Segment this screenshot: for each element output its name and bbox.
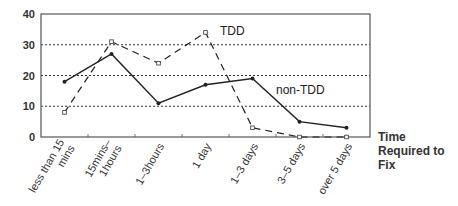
x-category-label: 1–3 days <box>228 141 261 186</box>
data-point-non-tdd <box>251 77 255 81</box>
x-category-label: 1 day <box>189 141 213 171</box>
x-category-label-line: 1–3 days <box>228 141 261 186</box>
x-axis-title-line: Time <box>378 130 406 144</box>
data-point-tdd <box>63 111 67 115</box>
x-category-label-line: over 5 days <box>315 141 354 197</box>
y-tick-label: 10 <box>23 100 35 112</box>
data-point-tdd <box>204 31 208 35</box>
y-axis-ticks: 010203040 <box>23 8 35 143</box>
data-point-non-tdd <box>110 52 114 56</box>
x-category-label: 15mins–1hours <box>82 136 124 185</box>
x-category-label: over 5 days <box>315 141 354 197</box>
x-axis-title-line: Fix <box>378 158 396 172</box>
y-tick-label: 40 <box>23 8 35 20</box>
data-point-non-tdd <box>345 126 349 130</box>
x-category-label: 1–3hours <box>133 141 167 187</box>
x-category-label: 3–5 days <box>275 141 308 186</box>
series-label-tdd: TDD <box>220 24 245 38</box>
data-point-tdd <box>345 135 349 139</box>
y-tick-label: 30 <box>23 39 35 51</box>
x-category-label: less than 15mins <box>26 137 77 201</box>
data-point-tdd <box>110 40 114 44</box>
line-chart: 010203040 less than 15mins15mins–1hours1… <box>0 0 458 206</box>
data-point-tdd <box>157 61 161 65</box>
data-point-non-tdd <box>157 101 161 105</box>
x-category-label-line: 3–5 days <box>275 141 308 186</box>
x-axis-title: TimeRequired toFix <box>378 130 445 172</box>
data-point-non-tdd <box>204 83 208 87</box>
y-tick-label: 0 <box>29 131 35 143</box>
data-point-non-tdd <box>63 80 67 84</box>
data-point-tdd <box>298 135 302 139</box>
x-category-label-line: 1–3hours <box>133 141 167 187</box>
data-point-non-tdd <box>298 120 302 124</box>
category-labels: less than 15mins15mins–1hours1–3hours1 d… <box>26 136 354 200</box>
x-category-label-line: 1 day <box>189 141 213 171</box>
x-axis-title-line: Required to <box>378 144 445 158</box>
data-point-tdd <box>251 126 255 130</box>
gridlines <box>41 45 370 107</box>
series-label-non-tdd: non-TDD <box>276 83 325 97</box>
y-tick-label: 20 <box>23 70 35 82</box>
